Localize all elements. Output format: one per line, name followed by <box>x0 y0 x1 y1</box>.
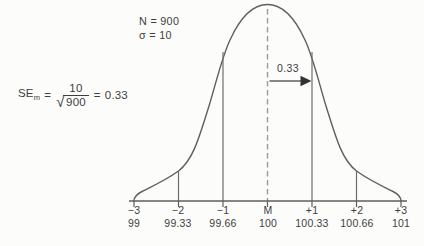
formula-radicand: 900 <box>63 95 89 109</box>
sigma-tick-mean: M <box>246 204 290 216</box>
se-formula: SEm = 10 √ 900 = 0.33 <box>18 82 128 108</box>
value-tick-9966: 99.66 <box>201 217 245 229</box>
formula-equals-2: = <box>94 89 101 101</box>
sigma-tick-minus1: −1 <box>201 204 245 216</box>
distribution-params: N = 900 σ = 10 <box>139 15 179 42</box>
value-tick-101: 101 <box>379 217 423 229</box>
value-tick-100: 100 <box>246 217 290 229</box>
n-label: N = 900 <box>139 15 179 29</box>
normal-curve-figure: N = 900 σ = 10 SEm = 10 √ 900 = 0.33 0.3… <box>0 0 424 246</box>
formula-fraction: 10 √ 900 <box>56 82 89 108</box>
sigma-tick-plus2: +2 <box>335 204 379 216</box>
value-tick-10066: 100.66 <box>335 217 379 229</box>
formula-result: 0.33 <box>105 89 128 101</box>
sigma-tick-minus2: −2 <box>156 204 200 216</box>
formula-numerator: 10 <box>63 82 89 95</box>
formula-lhs: SEm <box>18 87 40 102</box>
value-tick-99: 99 <box>112 217 156 229</box>
sigma-tick-plus1: +1 <box>290 204 334 216</box>
se-arrow-label: 0.33 <box>277 62 299 74</box>
sigma-label: σ = 10 <box>139 29 179 43</box>
sigma-tick-minus3: −3 <box>112 204 156 216</box>
sigma-tick-plus3: +3 <box>379 204 423 216</box>
value-tick-10033: 100.33 <box>290 217 334 229</box>
se-arrow-head <box>301 76 312 86</box>
value-tick-9933: 99.33 <box>156 217 200 229</box>
formula-equals-1: = <box>44 89 51 101</box>
